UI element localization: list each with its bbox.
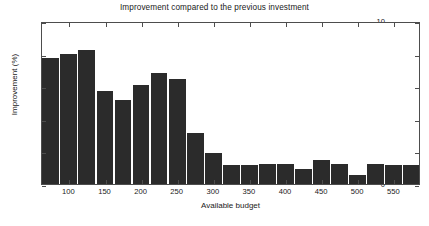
y-tick-mark [42,56,46,57]
y-tick-mark [42,23,46,24]
x-tick-label: 450 [305,188,337,196]
x-tick-mark [394,23,395,27]
x-tick-mark [69,23,70,27]
y-tick-mark [42,153,46,154]
bar [295,169,312,184]
x-axis-label: Available budget [41,201,420,210]
y-tick-mark [415,88,419,89]
x-tick-mark [286,23,287,27]
x-tick-label: 250 [161,188,193,196]
x-tick-mark [178,23,179,27]
x-tick-mark [69,180,70,184]
x-tick-mark [214,180,215,184]
bar [78,50,95,184]
x-tick-mark [106,180,107,184]
plot-area [41,22,420,185]
chart-figure: Improvement compared to the previous inv… [0,0,429,226]
x-tick-mark [358,23,359,27]
bar [115,100,132,184]
x-tick-mark [142,180,143,184]
y-tick-mark [415,186,419,187]
y-tick-mark [42,186,46,187]
bar [367,164,384,184]
y-tick-mark [42,88,46,89]
y-axis-label: Improvement (%) [10,25,19,145]
y-tick-mark [415,153,419,154]
y-tick-mark [42,121,46,122]
x-tick-mark [322,23,323,27]
x-tick-mark [250,23,251,27]
bar [403,165,419,184]
x-tick-mark [214,23,215,27]
x-tick-label: 150 [89,188,121,196]
bar [187,133,204,184]
bar [169,79,186,184]
bars-layer [42,23,419,184]
x-tick-label: 350 [233,188,265,196]
x-tick-mark [322,180,323,184]
x-tick-mark [142,23,143,27]
bar [60,54,77,184]
x-tick-mark [286,180,287,184]
chart-title: Improvement compared to the previous inv… [0,3,429,12]
x-tick-label: 300 [197,188,229,196]
x-tick-label: 200 [125,188,157,196]
bar [97,91,114,184]
y-tick-mark [415,56,419,57]
x-tick-label: 550 [377,188,409,196]
bar [223,165,240,184]
x-tick-mark [250,180,251,184]
x-tick-label: 400 [269,188,301,196]
y-tick-mark [415,23,419,24]
y-tick-mark [415,121,419,122]
bar [133,85,150,184]
x-tick-label: 500 [341,188,373,196]
x-tick-label: 100 [52,188,84,196]
bar [259,164,276,184]
bar [151,73,168,184]
x-tick-mark [394,180,395,184]
x-tick-mark [358,180,359,184]
bar [331,164,348,184]
x-tick-mark [178,180,179,184]
x-tick-mark [106,23,107,27]
